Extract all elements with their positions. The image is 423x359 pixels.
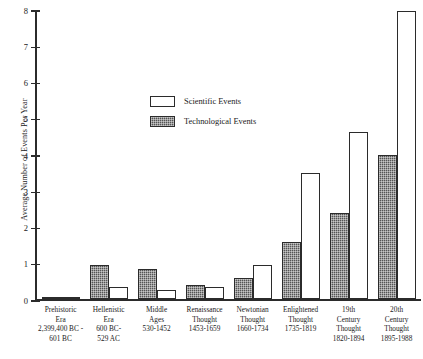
- bar-group: [325, 11, 373, 299]
- bar-tech: [234, 278, 253, 300]
- x-axis-label-line: 530-1452: [133, 324, 181, 334]
- bar-tech: [138, 269, 157, 300]
- x-axis-label-line: Renaissance: [181, 305, 229, 315]
- bar-sci: [253, 265, 272, 299]
- bar-group: [37, 11, 85, 299]
- bar-group: [181, 11, 229, 299]
- bar-chart: Average Number of Events Per Year 012345…: [0, 0, 423, 359]
- x-axis-label-line: Prehistoric: [37, 305, 85, 315]
- y-tick-label: 8: [15, 7, 28, 16]
- x-axis-label-line: 1453-1659: [181, 324, 229, 334]
- x-axis-label-line: 600 BC-: [85, 324, 133, 334]
- x-axis-category-label: MiddleAges530-1452: [133, 305, 181, 343]
- x-axis-category-label: HellenisticEra600 BC-529 AC: [85, 305, 133, 343]
- bar-tech: [330, 213, 349, 299]
- x-axis-label-line: Enlightened: [277, 305, 325, 315]
- x-axis-category-label: NewtonianThought1660-1734: [229, 305, 277, 343]
- legend-swatch-scientific: [150, 96, 175, 107]
- x-axis-label-line: Era: [37, 315, 85, 325]
- x-axis-category-label: 20thCenturyThought1895-1988: [373, 305, 421, 343]
- x-axis-label-line: Hellenistic: [85, 305, 133, 315]
- legend-label-scientific: Scientific Events: [184, 97, 241, 106]
- bar-group: [277, 11, 325, 299]
- x-axis-labels: PrehistoricEra2,399,400 BC -601 BCHellen…: [37, 305, 421, 343]
- x-axis-line: [35, 299, 421, 301]
- bar-tech: [282, 242, 301, 300]
- x-axis-label-line: 601 BC: [37, 334, 85, 344]
- x-axis-label-line: Thought: [325, 324, 373, 334]
- plot-area: 012345678: [35, 11, 421, 301]
- chart-legend: Scientific Events Technological Events: [150, 96, 256, 136]
- y-tick-mark: [31, 300, 40, 301]
- bar-tech: [90, 265, 109, 299]
- x-axis-label-line: 1820-1894: [325, 334, 373, 344]
- x-axis-label-line: 19th: [325, 305, 373, 315]
- legend-swatch-technological: [150, 116, 175, 127]
- x-axis-label-line: Thought: [181, 315, 229, 325]
- x-axis-label-line: Newtonian: [229, 305, 277, 315]
- x-axis-label-line: Century: [325, 315, 373, 325]
- bar-group: [133, 11, 181, 299]
- y-tick-label: 1: [15, 260, 28, 269]
- bar-tech: [378, 155, 397, 299]
- x-axis-label-line: Century: [373, 315, 421, 325]
- bar-sci: [349, 132, 368, 299]
- legend-item-technological: Technological Events: [150, 116, 256, 127]
- bar-sci: [397, 11, 416, 299]
- x-axis-label-line: Thought: [373, 324, 421, 334]
- x-axis-label-line: 1735-1819: [277, 324, 325, 334]
- x-axis-label-line: Thought: [277, 315, 325, 325]
- x-axis-label-line: Thought: [229, 315, 277, 325]
- x-axis-label-line: 20th: [373, 305, 421, 315]
- legend-item-scientific: Scientific Events: [150, 96, 256, 107]
- bar-tech: [42, 297, 61, 299]
- bar-sci: [109, 287, 128, 300]
- x-axis-label-line: Middle: [133, 305, 181, 315]
- x-axis-category-label: RenaissanceThought1453-1659: [181, 305, 229, 343]
- bar-sci: [61, 297, 80, 299]
- bar-group: [229, 11, 277, 299]
- y-tick-label: 4: [15, 152, 28, 161]
- x-axis-category-label: 19thCenturyThought1820-1894: [325, 305, 373, 343]
- bar-sci: [157, 290, 176, 299]
- bar-group: [85, 11, 133, 299]
- bar-groups: [37, 11, 421, 299]
- x-axis-label-line: Ages: [133, 315, 181, 325]
- bar-sci: [301, 173, 320, 299]
- x-axis-label-line: 1660-1734: [229, 324, 277, 334]
- y-tick-label: 5: [15, 115, 28, 124]
- bar-group: [373, 11, 421, 299]
- x-axis-label-line: 529 AC: [85, 334, 133, 344]
- x-axis-category-label: PrehistoricEra2,399,400 BC -601 BC: [37, 305, 85, 343]
- bar-sci: [205, 287, 224, 300]
- y-tick-label: 7: [15, 43, 28, 52]
- legend-label-technological: Technological Events: [184, 117, 256, 126]
- y-tick-label: 3: [15, 188, 28, 197]
- x-axis-category-label: EnlightenedThought1735-1819: [277, 305, 325, 343]
- x-axis-label-line: 1895-1988: [373, 334, 421, 344]
- x-axis-label-line: 2,399,400 BC -: [37, 324, 85, 334]
- x-axis-label-line: Era: [85, 315, 133, 325]
- y-tick-label: 2: [15, 224, 28, 233]
- bar-tech: [186, 285, 205, 299]
- y-tick-label: 0: [15, 297, 28, 306]
- y-tick-label: 6: [15, 79, 28, 88]
